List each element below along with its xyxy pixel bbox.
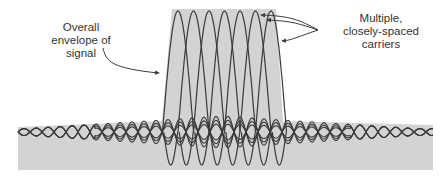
carrier-arrow-line-3 [283,30,318,41]
carriers-label: Multiple, closely-spaced carriers [326,12,436,51]
envelope-label: Overall envelope of signal [44,21,118,60]
envelope-arrowhead [155,70,160,74]
carrier-arrowhead-3 [281,38,286,42]
